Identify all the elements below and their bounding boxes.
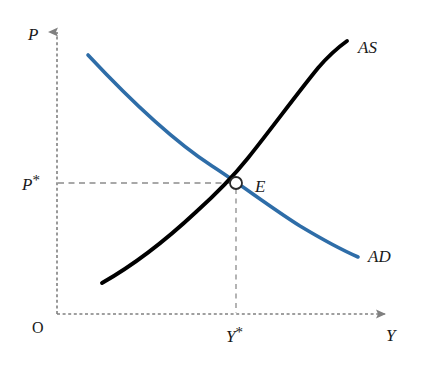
price-tick-letter: P [21,175,32,194]
aggregate-supply-curve [102,41,347,283]
aggregate-demand-curve [88,55,358,257]
equilibrium-point-label: E [254,177,266,196]
price-tick-label: P* [21,172,40,194]
x-axis-label: Y [386,326,397,345]
demand-curve-label: AD [367,247,391,266]
chart-canvas: P Y O AS AD E P* Y* [0,0,422,365]
supply-curve-label: AS [357,38,377,57]
y-axis-label: P [27,25,38,44]
equilibrium-point-marker [230,177,242,189]
economics-chart-figure: P Y O AS AD E P* Y* [0,0,422,365]
price-tick-star: * [32,172,40,188]
origin-label: O [32,319,44,336]
output-tick-star: * [235,324,243,340]
output-tick-label: Y* [226,324,243,346]
